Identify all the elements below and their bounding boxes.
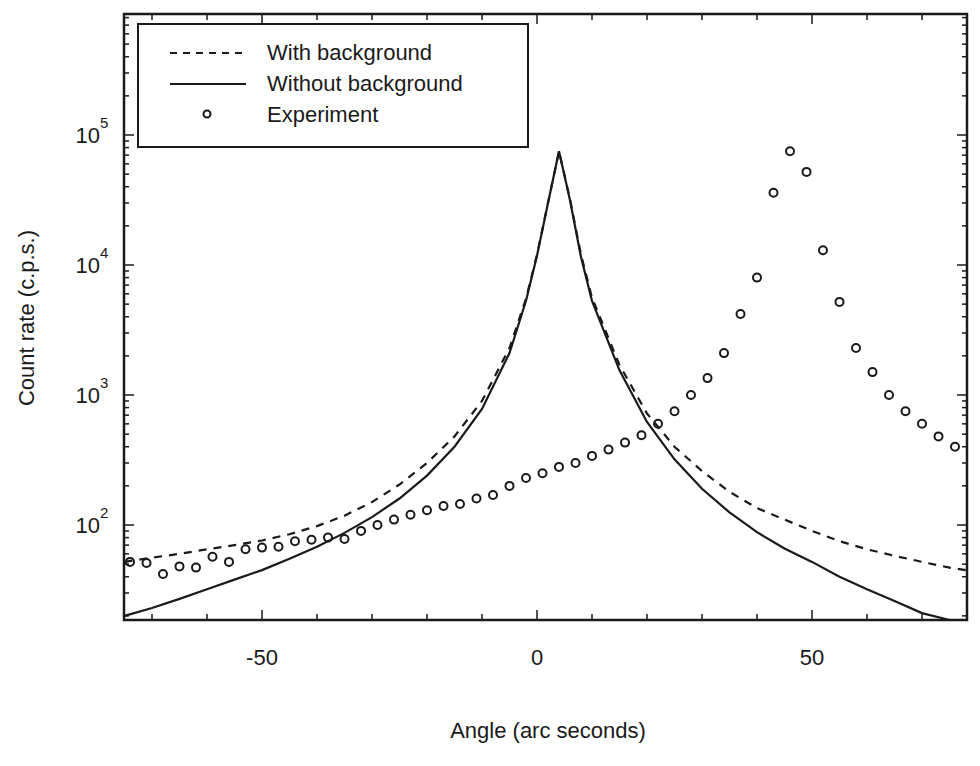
legend-label-with-background: With background	[267, 40, 432, 65]
experiment-data-point	[291, 537, 299, 545]
y-tick-label: 10 4	[76, 244, 109, 278]
experiment-data-point	[440, 502, 448, 510]
legend-label-without-background: Without background	[267, 71, 463, 96]
experiment-data-point	[638, 431, 646, 439]
plot-series	[125, 151, 967, 620]
svg-text:10: 10	[76, 383, 100, 408]
x-tick-label: 0	[531, 645, 543, 670]
experiment-data-point	[803, 168, 811, 176]
experiment-data-point	[918, 420, 926, 428]
x-tick-label: 50	[800, 645, 824, 670]
experiment-data-point	[242, 545, 250, 553]
experiment-data-point	[522, 474, 530, 482]
x-tick-label: -50	[246, 645, 278, 670]
experiment-data-point	[687, 391, 695, 399]
experiment-data-point	[357, 527, 365, 535]
experiment-data-point	[720, 349, 728, 357]
y-tick-label: 10 3	[76, 374, 109, 408]
experiment-data-point	[605, 446, 613, 454]
experiment-data-point	[671, 407, 679, 415]
experiment-data-point	[588, 452, 596, 460]
experiment-data-point	[225, 558, 233, 566]
experiment-data-point	[308, 536, 316, 544]
legend-label-experiment: Experiment	[267, 102, 378, 127]
svg-text:10: 10	[76, 513, 100, 538]
experiment-data-point	[506, 482, 514, 490]
experiment-data-point	[704, 374, 712, 382]
experiment-data-point	[572, 459, 580, 467]
experiment-markers	[126, 147, 959, 578]
experiment-data-point	[753, 274, 761, 282]
svg-text:4: 4	[100, 244, 108, 261]
y-tick-label: 10 5	[76, 114, 109, 148]
svg-text:3: 3	[100, 374, 108, 391]
experiment-data-point	[836, 298, 844, 306]
experiment-data-point	[456, 500, 464, 508]
experiment-data-point	[819, 246, 827, 254]
experiment-data-point	[489, 491, 497, 499]
experiment-data-point	[159, 570, 167, 578]
experiment-data-point	[935, 432, 943, 440]
experiment-data-point	[374, 521, 382, 529]
experiment-data-point	[555, 463, 563, 471]
experiment-data-point	[423, 506, 431, 514]
experiment-data-point	[341, 535, 349, 543]
experiment-data-point	[885, 391, 893, 399]
legend: With background Without background Exper…	[138, 24, 528, 147]
y-axis-title: Count rate (c.p.s.)	[14, 230, 39, 406]
experiment-data-point	[539, 469, 547, 477]
y-tick-label: 10 2	[76, 504, 109, 538]
experiment-data-point	[852, 344, 860, 352]
experiment-data-point	[473, 495, 481, 503]
experiment-data-point	[770, 189, 778, 197]
svg-text:10: 10	[76, 123, 100, 148]
experiment-data-point	[390, 516, 398, 524]
experiment-data-point	[143, 559, 151, 567]
svg-text:2: 2	[100, 504, 108, 521]
experiment-data-point	[786, 147, 794, 155]
chart-canvas: -50 0 50 10 5 10 4 10 3 10 2 Angle (arc …	[0, 0, 980, 766]
experiment-data-point	[192, 564, 200, 572]
svg-text:5: 5	[100, 114, 108, 131]
experiment-data-point	[176, 562, 184, 570]
experiment-data-point	[275, 543, 283, 551]
experiment-data-point	[621, 439, 629, 447]
experiment-data-point	[869, 368, 877, 376]
without-background-curve	[125, 151, 967, 620]
experiment-data-point	[951, 443, 959, 451]
x-axis-title: Angle (arc seconds)	[450, 718, 646, 743]
experiment-data-point	[209, 553, 217, 561]
experiment-data-point	[902, 407, 910, 415]
experiment-data-point	[258, 544, 266, 552]
experiment-data-point	[737, 310, 745, 318]
experiment-data-point	[407, 511, 415, 519]
svg-text:10: 10	[76, 253, 100, 278]
